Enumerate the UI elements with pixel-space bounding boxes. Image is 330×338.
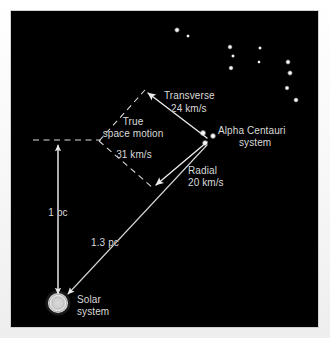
distance-1p3pc-arrow	[68, 145, 207, 294]
radial-vector-arrow	[156, 142, 207, 185]
dashed-edge-top	[99, 90, 145, 141]
alpha-centauri-star-a	[199, 129, 206, 136]
true-space-motion-parallelogram	[33, 90, 153, 188]
background-star	[285, 59, 291, 65]
solar-system-core	[53, 298, 64, 309]
background-star	[258, 46, 262, 50]
background-star	[231, 54, 235, 58]
alpha-centauri-star-b	[210, 133, 217, 140]
background-star	[293, 97, 299, 103]
background-star	[227, 44, 233, 50]
distance-arrows	[58, 145, 207, 296]
solar-system-marker	[46, 291, 71, 316]
background-star	[284, 85, 289, 90]
background-star	[174, 27, 180, 33]
background-star	[228, 65, 234, 71]
alpha-centauri-star-c	[202, 140, 209, 147]
background-star-field	[174, 27, 299, 103]
dashed-edge-bottom	[99, 141, 153, 188]
transverse-vector-arrow	[148, 93, 207, 138]
background-star	[186, 34, 190, 38]
motion-vectors	[148, 93, 207, 185]
background-star	[257, 60, 261, 64]
background-star	[287, 70, 293, 76]
sky-panel: Transverse 24 km/s True space motion 31 …	[11, 11, 318, 327]
alpha-centauri-stars	[199, 129, 216, 146]
figure-root: Transverse 24 km/s True space motion 31 …	[0, 0, 330, 338]
diagram-canvas	[11, 11, 318, 327]
